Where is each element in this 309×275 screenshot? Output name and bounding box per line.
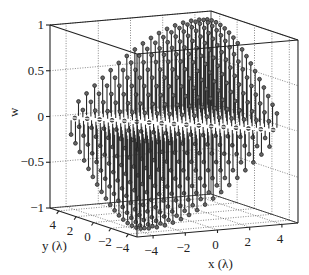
stem-marker [198, 22, 202, 26]
stem-marker [262, 86, 266, 90]
stem-marker [275, 112, 279, 116]
stem-marker [182, 30, 186, 34]
stem-marker [121, 218, 125, 222]
stem-marker [238, 135, 242, 139]
z-axis-ticks: −1−0.500.51 [20, 17, 50, 215]
stem-marker [191, 203, 195, 207]
stem-marker [186, 198, 190, 202]
stem-marker [93, 84, 97, 88]
stem-marker [151, 102, 155, 106]
stem-marker [147, 93, 151, 97]
stem-marker [215, 183, 219, 187]
stem-marker [109, 68, 113, 72]
stem-marker [108, 203, 112, 207]
stem-marker [125, 54, 129, 58]
stem-marker [116, 199, 120, 203]
stem-marker [184, 94, 188, 98]
stem-marker [166, 40, 170, 44]
stem-marker [189, 19, 193, 23]
stem-marker [253, 69, 257, 73]
x-axis-ticks: −4−2024 [144, 224, 283, 257]
stem-marker [97, 92, 101, 96]
stem-marker [252, 161, 256, 165]
stem-marker [155, 225, 159, 229]
stem-marker [174, 198, 178, 202]
stem-marker [223, 39, 227, 43]
stem-marker [207, 48, 211, 52]
stem-marker [139, 227, 143, 231]
stem-marker [219, 190, 223, 194]
stem-marker [178, 26, 182, 30]
stem-marker [201, 105, 205, 109]
stem-marker [204, 87, 208, 91]
stem-marker [197, 18, 201, 22]
stem-marker [206, 168, 210, 172]
stem-marker [225, 81, 229, 85]
stem-marker [183, 209, 187, 213]
data-stems [50, 17, 298, 230]
stem-marker [213, 106, 217, 110]
stem-marker [154, 219, 158, 223]
stem-marker [126, 76, 130, 80]
stem-marker [249, 62, 253, 66]
stem-marker [118, 110, 122, 114]
stem-marker [186, 23, 190, 27]
stem-marker [78, 150, 82, 154]
stem-marker [117, 213, 121, 217]
stem-marker [255, 118, 259, 122]
stem-marker [85, 92, 89, 96]
stem-marker [103, 177, 107, 181]
stem-marker [196, 95, 200, 99]
stem-marker [117, 61, 121, 65]
stem-marker [233, 99, 237, 103]
stem-marker [190, 25, 194, 29]
stem-marker [207, 191, 211, 195]
stem-marker [210, 19, 214, 23]
stem-marker [230, 117, 234, 121]
stem-marker [159, 93, 163, 97]
stem-marker [220, 50, 224, 54]
stem-marker [126, 221, 130, 225]
y-tick [57, 211, 59, 214]
stem-marker [218, 23, 222, 27]
stem-marker [192, 86, 196, 90]
stem-marker [150, 53, 154, 57]
stem-marker [100, 190, 104, 194]
stem-marker [176, 103, 180, 107]
stem-marker [163, 76, 167, 80]
stem-marker [235, 152, 239, 156]
stem-marker [245, 76, 249, 80]
stem-marker [204, 62, 208, 66]
stem-marker [170, 210, 174, 214]
stem-marker [239, 160, 243, 164]
stem-marker [198, 176, 202, 180]
y-tick [74, 217, 76, 220]
stem-marker [168, 112, 172, 116]
stem-marker [202, 26, 206, 30]
stem-marker [194, 20, 198, 24]
stem-marker [211, 197, 215, 201]
stem-marker [178, 204, 182, 208]
stem-marker [212, 56, 216, 60]
box-edge [50, 25, 137, 54]
stem-marker [194, 29, 198, 33]
z-axis-label: w [6, 107, 21, 117]
stem-marker [195, 208, 199, 212]
y-axis-label: y (λ) [42, 238, 67, 253]
stem-marker [113, 209, 117, 213]
stem-marker [188, 104, 192, 108]
y-tick-label: 0 [84, 229, 91, 244]
stem-marker [77, 100, 81, 104]
x-tick-label: 0 [212, 237, 219, 252]
grid-line [50, 103, 211, 117]
stem-marker [74, 141, 78, 145]
stem-marker [211, 37, 215, 41]
stem-marker [157, 31, 161, 35]
stem-marker [142, 218, 146, 222]
stem-marker [95, 160, 99, 164]
stem-marker [254, 93, 258, 97]
stem-marker [237, 60, 241, 64]
stem-marker [250, 109, 254, 113]
stem-marker [104, 197, 108, 201]
stem-marker [219, 33, 223, 37]
